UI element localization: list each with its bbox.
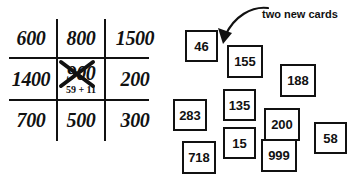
number-card: 200 xyxy=(264,108,300,141)
grid-cell-r2c0: 700 xyxy=(6,101,56,140)
grid-cell-r1c2: 200 xyxy=(106,59,164,99)
number-card-value: 46 xyxy=(194,39,208,54)
grid-cell-r1c1-crossed-out: 900 59 + 11 xyxy=(58,59,104,99)
grid-cell-r1c1-correction-note: 59 + 11 xyxy=(58,84,104,95)
grid-cell-r1c0: 1400 xyxy=(6,59,56,99)
number-card-value: 200 xyxy=(271,117,293,132)
grid-cell-r0c2: 1500 xyxy=(106,20,164,57)
number-card: 15 xyxy=(223,127,256,159)
number-card: 155 xyxy=(227,45,263,78)
number-card: 135 xyxy=(223,89,256,121)
grid-cell-r1c1-value: 900 xyxy=(58,59,104,87)
number-card: 46 xyxy=(185,30,218,62)
annotation-label: two new cards xyxy=(262,8,338,20)
number-card-value: 155 xyxy=(234,54,256,69)
grid-cell-r0c1: 800 xyxy=(58,20,104,57)
number-card-value: 135 xyxy=(229,98,251,113)
number-card-value: 58 xyxy=(323,131,337,146)
number-card: 188 xyxy=(280,64,316,97)
grid-cell-r2c2: 300 xyxy=(106,101,164,140)
number-card-value: 718 xyxy=(188,150,210,165)
number-grid: 600 800 1500 1400 900 59 + 11 200 700 50… xyxy=(0,0,170,181)
number-card: 58 xyxy=(314,122,347,154)
number-card: 999 xyxy=(261,139,297,172)
number-card-value: 15 xyxy=(232,136,246,151)
number-card-value: 188 xyxy=(287,73,309,88)
number-card: 283 xyxy=(173,99,207,131)
number-card-value: 999 xyxy=(268,148,290,163)
worksheet-figure: 600 800 1500 1400 900 59 + 11 200 700 50… xyxy=(0,0,357,181)
number-card-value: 283 xyxy=(179,108,201,123)
number-card: 718 xyxy=(182,141,216,174)
grid-cell-r2c1: 500 xyxy=(58,101,104,140)
grid-cell-r0c0: 600 xyxy=(6,20,56,57)
number-cards-group: 461551881352832005815718999 xyxy=(170,0,357,181)
